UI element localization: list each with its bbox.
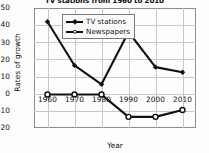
legend-label-tv-stations: TV stations [83,18,126,26]
legend-item-newspapers: Newspapers [66,27,130,36]
data-point-open-circle [99,92,104,97]
data-point-open-circle [180,108,185,113]
data-point-open-circle [72,92,77,97]
filled-diamond-marker-icon [72,19,78,25]
series-line-newspapers [48,95,183,117]
legend-item-tv-stations: TV stations [66,17,130,26]
open-circle-marker-icon [72,29,76,33]
legend-label-newspapers: Newspapers [83,28,130,36]
data-point-open-circle [153,114,158,119]
chart-legend: TV stations Newspapers [62,14,135,39]
chart-figure: TV stations from 1960 to 2010 5040302010… [0,0,209,153]
data-point-open-circle [126,114,131,119]
data-point-open-circle [45,92,50,97]
legend-swatch-tv-stations [66,17,83,26]
data-point-filled-diamond [180,70,185,75]
legend-swatch-newspapers [66,27,83,36]
